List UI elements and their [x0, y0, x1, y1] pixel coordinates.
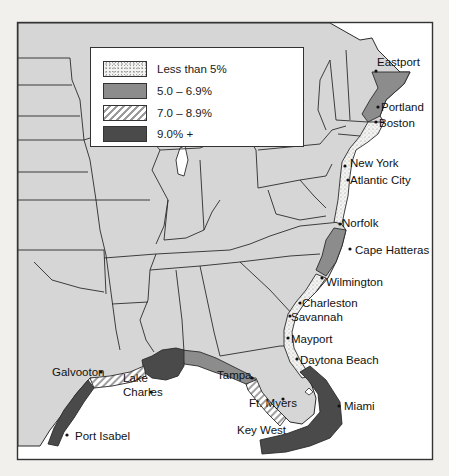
- city-label-norfolk: Norfolk: [342, 217, 378, 230]
- legend-label: Less than 5%: [157, 63, 227, 75]
- city-label-key-west: Key West: [237, 424, 286, 437]
- medium-gray-swatch-icon: [103, 83, 147, 99]
- city-label-eastport: Eastport: [377, 56, 420, 69]
- hatch-swatch-icon: [103, 105, 147, 121]
- city-label-cape-hatteras: Cape Hatteras: [355, 244, 429, 257]
- city-label-wilmington: Wilmington: [326, 276, 383, 289]
- legend-row-5-to-6-9: 5.0 – 6.9%: [103, 81, 212, 101]
- city-label-mayport: Mayport: [291, 333, 333, 346]
- legend-row-9-plus: 9.0% +: [103, 124, 193, 144]
- city-label-savannah: Savannah: [291, 311, 343, 324]
- dark-gray-swatch-icon: [103, 126, 147, 142]
- city-label-lake-charles-line1: Lake: [123, 371, 148, 385]
- city-label-lake-charles-line2: Charles: [123, 385, 163, 399]
- legend-row-7-to-8-9: 7.0 – 8.9%: [103, 103, 212, 123]
- legend-row-less-than-5: Less than 5%: [103, 59, 227, 79]
- legend-label: 5.0 – 6.9%: [157, 85, 212, 97]
- legend-label: 9.0% +: [157, 128, 193, 140]
- city-label-port-isabel: Port Isabel: [75, 430, 130, 443]
- city-label-ft-myers: Ft. Myers: [249, 397, 297, 410]
- city-label-tampa: Tampa: [217, 369, 252, 382]
- city-label-charleston: Charleston: [302, 297, 358, 310]
- city-label-daytona-beach: Daytona Beach: [300, 354, 379, 367]
- city-label-new-york: New York: [350, 157, 399, 170]
- legend-label: 7.0 – 8.9%: [157, 107, 212, 119]
- city-label-portland: Portland: [381, 101, 424, 114]
- city-label-atlantic-city: Atlantic City: [350, 174, 411, 187]
- city-label-miami: Miami: [344, 400, 375, 413]
- dots-swatch-icon: [103, 61, 147, 77]
- city-label-boston: Boston: [379, 117, 415, 130]
- map-legend: Less than 5% 5.0 – 6.9% 7.0 – 8.9% 9.0% …: [90, 47, 304, 147]
- city-label-galveston: Galvooton: [52, 366, 104, 379]
